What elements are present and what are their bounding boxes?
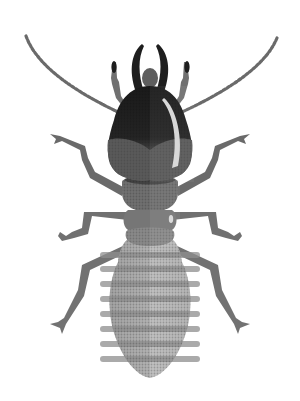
- termite-svg: [0, 0, 300, 401]
- labrum: [142, 68, 158, 88]
- antenna-right: [182, 38, 277, 112]
- mandible-right: [156, 44, 168, 92]
- palp-left-tip: [111, 61, 116, 73]
- thorax-shade-right: [150, 176, 180, 246]
- mandible-left: [132, 44, 144, 92]
- termite-illustration: Stylized grayscale halftone illustration…: [0, 0, 300, 401]
- head-shade-right: [150, 86, 194, 182]
- leg-middle-right: [172, 212, 242, 241]
- palp-right-tip: [184, 61, 189, 73]
- antenna-left: [26, 36, 118, 112]
- abdomen: [0, 232, 200, 378]
- thorax: [122, 174, 180, 246]
